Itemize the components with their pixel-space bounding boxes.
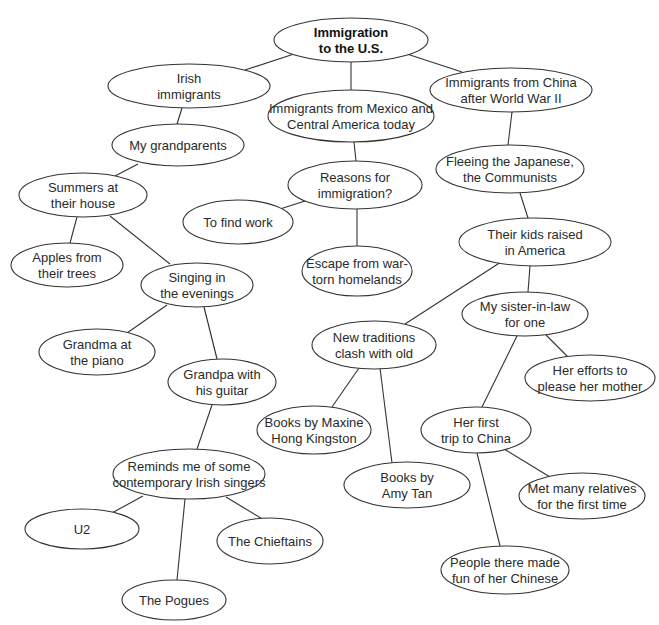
node-label: Her efforts to	[553, 363, 628, 378]
topic-node: Fleeing the Japanese,the Communists	[436, 145, 584, 193]
node-label: the piano	[70, 353, 124, 368]
topic-node: Immigrants from Mexico andCentral Americ…	[268, 90, 434, 142]
topic-node: Singing inthe evenings	[141, 263, 253, 307]
node-label: People there made	[450, 555, 560, 570]
connector-n21-n24	[226, 497, 264, 520]
node-label: My sister-in-law	[480, 299, 571, 314]
connector-n5-n8	[280, 201, 305, 209]
topic-node: People there madefun of her Chinese	[441, 546, 569, 594]
node-label: please her mother	[538, 379, 643, 394]
connector-n21-n23	[110, 496, 143, 514]
node-label: after World War II	[460, 91, 561, 106]
node-label: to the U.S.	[319, 41, 383, 56]
connector-n13-n19	[482, 336, 517, 407]
topic-node: Escape from war-torn homelands	[302, 246, 412, 296]
node-label: Immigrants from China	[445, 75, 577, 90]
topic-node: Her efforts toplease her mother	[525, 355, 655, 401]
node-label: Fleeing the Japanese,	[446, 154, 574, 169]
connector-n14-n20	[380, 368, 392, 463]
node-label: clash with old	[335, 346, 413, 361]
node-label: for the first time	[537, 497, 627, 512]
node-label: Summers at	[48, 180, 118, 195]
connector-n2-n5	[354, 142, 356, 161]
node-label: Books by Maxine	[265, 415, 364, 430]
topic-node: Their kids raisedin America	[459, 218, 611, 266]
topic-node: Books by MaxineHong Kingston	[257, 406, 371, 454]
node-label: contemporary Irish singers	[112, 475, 266, 490]
node-label: in America	[505, 243, 566, 258]
topic-node: Summers attheir house	[19, 173, 147, 217]
topic-node: My grandparents	[112, 124, 244, 166]
diagram-nodes: Immigrationto the U.S.IrishimmigrantsImm…	[11, 18, 655, 620]
node-label: their house	[51, 196, 115, 211]
node-label: Books by	[380, 470, 434, 485]
topic-node: Grandpa withhis guitar	[168, 359, 276, 405]
node-label: Apples from	[32, 250, 101, 265]
node-label: My grandparents	[129, 138, 227, 153]
connector-n17-n21	[197, 405, 212, 449]
node-label: fun of her Chinese	[452, 571, 558, 586]
connector-n10-n13	[528, 266, 530, 292]
node-label: The Pogues	[139, 593, 210, 608]
central-topic-node: Immigrationto the U.S.	[274, 18, 428, 62]
cluster-diagram: Immigrationto the U.S.IrishimmigrantsImm…	[0, 0, 659, 625]
node-label: Reasons for	[320, 170, 391, 185]
node-label: Singing in	[168, 270, 225, 285]
topic-node: My sister-in-lawfor one	[462, 292, 588, 336]
connector-n13-n15	[546, 335, 570, 359]
node-label: Grandma at	[63, 337, 132, 352]
node-label: Irish	[177, 71, 202, 86]
node-label: his guitar	[196, 383, 249, 398]
connector-n6-n10	[520, 193, 528, 218]
node-label: torn homelands	[312, 272, 402, 287]
connector-n3-n6	[508, 112, 512, 145]
connector-n14-n18	[332, 368, 359, 407]
node-label: their trees	[38, 266, 96, 281]
node-label: immigrants	[157, 87, 221, 102]
connector-n12-n16	[127, 305, 167, 333]
node-label: Hong Kingston	[271, 431, 356, 446]
topic-node: The Pogues	[122, 580, 226, 620]
connector-n19-n25	[477, 453, 500, 546]
topic-node: Irishimmigrants	[108, 64, 270, 108]
topic-node: Grandma atthe piano	[39, 329, 155, 375]
topic-node: U2	[25, 509, 139, 549]
node-label: the Communists	[463, 170, 557, 185]
topic-node: The Chieftains	[217, 518, 323, 564]
node-label: Grandpa with	[183, 367, 260, 382]
node-label: for one	[505, 315, 545, 330]
node-label: the evenings	[160, 286, 234, 301]
node-label: Met many relatives	[527, 481, 637, 496]
connector-n12-n17	[204, 307, 217, 359]
node-label: Immigration	[314, 25, 388, 40]
topic-node: Apples fromtheir trees	[11, 243, 123, 287]
node-label: Amy Tan	[382, 486, 432, 501]
topic-node: Books byAmy Tan	[344, 462, 470, 508]
connector-n0-n3	[407, 54, 462, 72]
node-label: U2	[74, 522, 91, 537]
topic-node: Reasons forimmigration?	[288, 161, 422, 209]
topic-node: New traditionsclash with old	[312, 321, 436, 369]
connector-n21-n26	[177, 499, 185, 580]
connector-n1-n4	[177, 108, 182, 124]
connector-n19-n22	[504, 449, 550, 477]
node-label: To find work	[203, 215, 273, 230]
node-label: Reminds me of some	[128, 459, 251, 474]
node-label: Escape from war-	[306, 256, 408, 271]
topic-node: Her firsttrip to China	[421, 407, 531, 453]
node-label: Immigrants from Mexico and	[269, 101, 433, 116]
topic-node: To find work	[183, 200, 293, 244]
connector-n4-n7	[115, 164, 138, 176]
node-label: Their kids raised	[487, 227, 582, 242]
node-label: Her first	[453, 415, 499, 430]
node-label: The Chieftains	[228, 534, 312, 549]
topic-node: Reminds me of somecontemporary Irish sin…	[112, 449, 266, 499]
topic-node: Met many relativesfor the first time	[519, 473, 645, 519]
topic-node: Immigrants from Chinaafter World War II	[430, 68, 592, 112]
node-label: trip to China	[441, 431, 512, 446]
connector-n7-n11	[70, 217, 77, 243]
node-label: Central America today	[287, 117, 415, 132]
connector-n0-n1	[245, 53, 297, 70]
node-label: New traditions	[333, 330, 416, 345]
node-label: immigration?	[318, 186, 392, 201]
